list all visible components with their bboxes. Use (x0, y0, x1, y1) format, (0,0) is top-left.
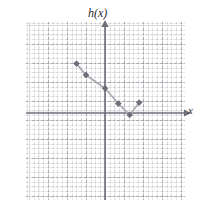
graph-figure: h(x) x (0, 0, 200, 209)
x-axis-label: x (188, 104, 193, 116)
y-axis-label: h(x) (88, 6, 107, 21)
series-polyline (77, 64, 140, 115)
data-series-layer (0, 0, 200, 209)
